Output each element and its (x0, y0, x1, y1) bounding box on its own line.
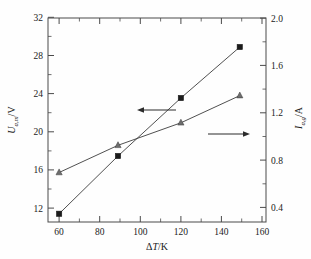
chart-figure: 60 80 100 120 140 160 ΔT/K ΔT/K (0, 0, 311, 259)
y2-tick-label-2: 1.2 (271, 108, 283, 118)
chart-canvas: 60 80 100 120 140 160 ΔT/K ΔT/K (0, 0, 311, 259)
y2-tick-label-0: 0.4 (271, 203, 283, 213)
series-u-am-point-1 (115, 153, 120, 158)
y-tick-label-0: 12 (34, 204, 44, 214)
x-tick-label-5: 160 (255, 227, 270, 237)
x-axis-title: ΔT/K (146, 241, 169, 252)
y2-axis-title: Ia,g/A (293, 106, 306, 130)
y-tick-label-2: 20 (34, 127, 44, 137)
y2-tick-label-3: 1.6 (271, 61, 283, 71)
series-u-am-point-3 (237, 44, 242, 49)
series-u-am-point-2 (178, 95, 183, 100)
svg-text:ΔT/K: ΔT/K (146, 241, 169, 252)
y2-tick-label-4: 2.0 (271, 14, 283, 24)
x-tick-label-1: 80 (95, 227, 105, 237)
svg-text:Ia,g/A: Ia,g/A (293, 106, 306, 130)
y-tick-label-5: 32 (34, 13, 44, 23)
x-tick-label-4: 140 (214, 227, 229, 237)
series-u-am-point-0 (56, 211, 61, 216)
y-tick-label-4: 28 (34, 51, 44, 61)
svg-text:Ua,m/V: Ua,m/V (6, 106, 19, 134)
y-tick-label-1: 16 (34, 165, 44, 175)
x-tick-label-2: 100 (133, 227, 148, 237)
x-tick-label-0: 60 (54, 227, 64, 237)
y-axis-title: Ua,m/V (6, 106, 19, 134)
y2-tick-label-1: 0.8 (271, 156, 283, 166)
x-tick-label-3: 120 (174, 227, 189, 237)
y-tick-label-3: 24 (34, 89, 44, 99)
